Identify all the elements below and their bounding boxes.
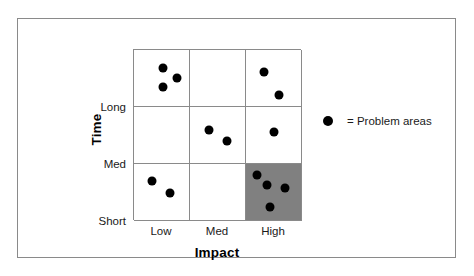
data-point-dot [281, 184, 290, 193]
legend: = Problem areas [323, 115, 432, 127]
data-point-dot [260, 68, 269, 77]
data-point-dot [263, 181, 272, 190]
x-axis-title: Impact [133, 245, 301, 260]
y-axis-label-short: Short [70, 215, 126, 227]
data-point-dot [270, 128, 279, 137]
figure-frame: Time Long Med Short Low Med High Impact … [17, 18, 456, 258]
data-point-dot [253, 171, 262, 180]
x-axis-label-high: High [245, 224, 301, 240]
data-point-dot [223, 137, 232, 146]
matrix-cell-high-short [246, 164, 302, 221]
data-point-dot [148, 177, 157, 186]
matrix-cell-med-short [190, 164, 246, 221]
x-axis-label-low: Low [133, 224, 189, 240]
y-axis-tick-labels: Long Med Short [70, 49, 126, 220]
matrix-cell-med-long [190, 50, 246, 107]
matrix-cell-low-med [134, 107, 190, 164]
data-point-dot [159, 83, 168, 92]
data-point-dot [205, 126, 214, 135]
y-axis-label-med: Med [70, 158, 126, 170]
data-point-dot [266, 203, 275, 212]
impact-time-matrix-figure: Time Long Med Short Low Med High Impact … [0, 0, 474, 276]
matrix-cell-low-long [134, 50, 190, 107]
matrix-cell-med-med [190, 107, 246, 164]
x-axis-tick-labels: Low Med High [133, 224, 301, 240]
matrix-cell-low-short [134, 164, 190, 221]
data-point-dot [159, 64, 168, 73]
data-point-dot [166, 189, 175, 198]
data-point-dot [173, 74, 182, 83]
matrix-cell-high-med [246, 107, 302, 164]
matrix-cell-high-long [246, 50, 302, 107]
data-point-dot [275, 91, 284, 100]
x-axis-label-med: Med [189, 224, 245, 240]
y-axis-label-long: Long [70, 101, 126, 113]
matrix-grid [133, 49, 301, 220]
legend-label: = Problem areas [347, 115, 432, 127]
filled-circle-icon [323, 116, 333, 126]
